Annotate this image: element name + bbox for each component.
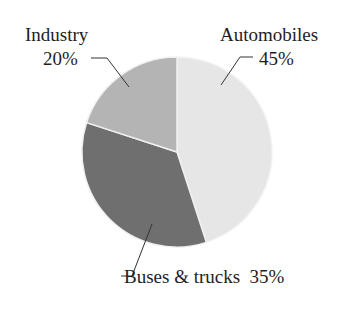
label-buses-trucks: Buses & trucks 35% (124, 267, 284, 287)
label-industry-pct: 20% (43, 49, 78, 69)
label-automobiles-name: Automobiles (220, 25, 318, 45)
label-automobiles-pct: 45% (259, 49, 294, 69)
label-buses-trucks-pct: 35% (250, 266, 285, 287)
label-industry-name: Industry (25, 25, 88, 45)
label-buses-trucks-name: Buses & trucks (124, 266, 240, 287)
